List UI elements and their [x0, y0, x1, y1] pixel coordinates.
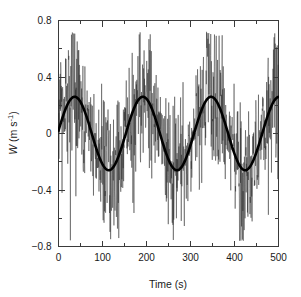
y-tick-label: 0.8: [38, 15, 52, 26]
y-tick-label: −0.8: [32, 241, 52, 252]
x-tick-label: 300: [182, 252, 199, 263]
line-chart: 0100200300400500 0.80.40−0.4−0.8 Time (s…: [0, 0, 301, 297]
y-axis-title-units-close: ): [7, 111, 19, 115]
svg-text:W (m s-1): W (m s-1): [6, 111, 20, 154]
x-tick-label: 100: [94, 252, 111, 263]
y-tick-label: −0.4: [32, 185, 52, 196]
x-axis-tick-labels: 0100200300400500: [56, 252, 288, 263]
y-tick-label: 0.4: [38, 72, 52, 83]
x-tick-label: 200: [138, 252, 155, 263]
x-tick-label: 0: [56, 252, 62, 263]
data-layer: [59, 32, 279, 241]
y-axis-title: W (m s-1): [6, 111, 20, 154]
x-tick-label: 400: [226, 252, 243, 263]
y-axis-title-units: (m s: [7, 121, 19, 141]
chart-figure: 0100200300400500 0.80.40−0.4−0.8 Time (s…: [0, 0, 301, 297]
y-axis-title-exponent: -1: [6, 115, 15, 122]
x-axis-title: Time (s): [149, 278, 187, 290]
x-tick-label: 500: [270, 252, 287, 263]
y-tick-label: 0: [46, 128, 52, 139]
y-axis-tick-labels: 0.80.40−0.4−0.8: [32, 15, 52, 252]
